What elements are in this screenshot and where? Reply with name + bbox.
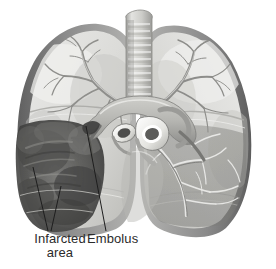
lungs-anatomy-drawing [0,0,276,269]
label-infarcted-line1: Infarcted [34,231,86,246]
label-embolus-text: Embolus [87,231,138,246]
label-embolus: Embolus [87,232,138,246]
trachea [126,10,153,110]
label-infarcted-line2: area [18,246,102,260]
pulmonary-embolism-illustration: Infarcted area Embolus [0,0,276,269]
